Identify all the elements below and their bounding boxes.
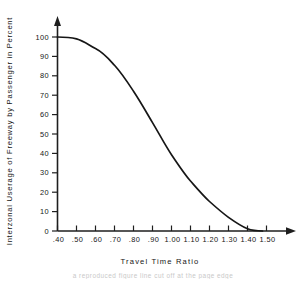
x-tick-labels: .40 .50 .60 .70 .80 .90 1.00 1.10 1.20 1…: [53, 235, 276, 244]
y-tick-label: 20: [40, 188, 49, 197]
y-tick-label: 30: [40, 168, 49, 177]
y-tick-label: 60: [40, 110, 49, 119]
x-tick-label: 1.50: [260, 235, 276, 244]
data-curve: [58, 37, 263, 231]
y-tick-labels: 0 10 20 30 40 50 60 70 80 90 100: [36, 33, 49, 236]
x-axis-arrowhead: [286, 227, 296, 235]
y-axis-title: Interzonal Userage of Freeway by Passeng…: [5, 17, 14, 246]
y-tick-label: 100: [36, 33, 49, 42]
y-tick-label: 10: [40, 207, 49, 216]
x-axis-title: Travel Time Ratio: [121, 257, 200, 266]
x-tick-label: .50: [72, 235, 83, 244]
x-tick-label: 1.00: [165, 235, 181, 244]
y-tick-label: 0: [45, 227, 49, 236]
y-tick-label: 80: [40, 71, 49, 80]
line-chart-canvas: 0 10 20 30 40 50 60 70 80 90 100 .40 .50…: [0, 0, 304, 281]
figure-caption-partial: a reproduced figure line cut off at the …: [28, 272, 278, 279]
x-tick-label: .80: [129, 235, 140, 244]
x-tick-label: .90: [148, 235, 159, 244]
y-tick-label: 90: [40, 52, 49, 61]
x-tick-label: .70: [110, 235, 121, 244]
y-axis-ticks: [52, 37, 58, 231]
y-tick-label: 50: [40, 130, 49, 139]
y-tick-label: 70: [40, 91, 49, 100]
x-tick-label: .60: [91, 235, 102, 244]
x-tick-label: .40: [53, 235, 64, 244]
x-axis-ticks: [58, 226, 267, 232]
chart-figure: 0 10 20 30 40 50 60 70 80 90 100 .40 .50…: [0, 0, 304, 281]
x-tick-label: 1.40: [241, 235, 257, 244]
x-tick-label: 1.20: [203, 235, 219, 244]
x-tick-label: 1.10: [184, 235, 200, 244]
y-axis-arrowhead: [54, 16, 61, 26]
y-tick-label: 40: [40, 149, 49, 158]
x-tick-label: 1.30: [222, 235, 238, 244]
